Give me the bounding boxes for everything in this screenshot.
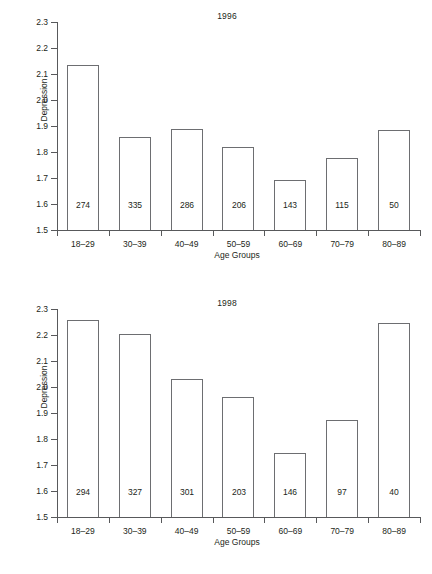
bar-count-label-1996-60–69: 143 — [260, 201, 320, 210]
x-axis-line-1996 — [57, 230, 421, 231]
y-tick-label-1996-5: 1.8 — [24, 148, 48, 157]
x-tick-1996-3 — [213, 231, 214, 236]
y-tick-label-1996-2: 2.1 — [24, 70, 48, 79]
x-tick-1998-4 — [264, 518, 265, 523]
y-axis-line-1996 — [57, 22, 58, 231]
bar-1998-60–69 — [274, 453, 306, 517]
y-tick-label-1996-4: 1.9 — [24, 122, 48, 131]
bar-count-label-1996-30–39: 335 — [105, 201, 165, 210]
y-tick-label-1998-6: 1.7 — [24, 461, 48, 470]
bar-count-label-1998-40–49: 301 — [157, 488, 217, 497]
figure-container: 1996 Depression Age Groups 2.32.22.12.01… — [0, 0, 432, 574]
x-tick-1996-4 — [264, 231, 265, 236]
y-tick-label-1996-3: 2.0 — [24, 96, 48, 105]
y-tick-1998-6 — [51, 465, 57, 466]
y-tick-label-1998-0: 2.3 — [24, 305, 48, 314]
y-tick-1998-0 — [51, 309, 57, 310]
bar-count-label-1998-60–69: 146 — [260, 488, 320, 497]
y-tick-1996-3 — [51, 100, 57, 101]
x-tick-1998-6 — [368, 518, 369, 523]
y-tick-label-1998-8: 1.5 — [24, 513, 48, 522]
chart-panel-1998: 1998 Depression Age Groups 2.32.22.12.01… — [0, 287, 432, 574]
y-tick-label-1998-5: 1.8 — [24, 435, 48, 444]
y-axis-line-1998 — [57, 309, 58, 518]
y-tick-label-1996-6: 1.7 — [24, 174, 48, 183]
bar-count-label-1998-70–79: 97 — [312, 488, 372, 497]
bar-count-label-1996-70–79: 115 — [312, 201, 372, 210]
bar-1996-40–49 — [171, 129, 203, 230]
x-axis-line-1998 — [57, 517, 421, 518]
y-tick-label-1996-8: 1.5 — [24, 226, 48, 235]
bar-1998-50–59 — [222, 397, 254, 517]
bar-1996-30–39 — [119, 137, 151, 230]
chart-title-1998: 1998 — [0, 298, 432, 308]
y-tick-1998-3 — [51, 387, 57, 388]
x-tick-1998-2 — [161, 518, 162, 523]
x-tick-1998-1 — [109, 518, 110, 523]
x-tick-1998-5 — [316, 518, 317, 523]
y-tick-1996-4 — [51, 126, 57, 127]
x-tick-1996-2 — [161, 231, 162, 236]
bar-1998-70–79 — [326, 420, 358, 517]
x-tick-1996-1 — [109, 231, 110, 236]
y-tick-label-1996-1: 2.2 — [24, 44, 48, 53]
x-axis-label-1998: Age Groups — [52, 537, 422, 547]
x-tick-1998-0 — [57, 518, 58, 523]
bar-count-label-1996-40–49: 286 — [157, 201, 217, 210]
y-tick-1996-6 — [51, 178, 57, 179]
y-tick-1998-5 — [51, 439, 57, 440]
bar-1996-50–59 — [222, 147, 254, 230]
x-axis-label-1996: Age Groups — [52, 250, 422, 260]
x-tick-1998-7 — [420, 518, 421, 523]
chart-panel-1996: 1996 Depression Age Groups 2.32.22.12.01… — [0, 0, 432, 287]
y-tick-1998-2 — [51, 361, 57, 362]
y-tick-label-1996-0: 2.3 — [24, 18, 48, 27]
y-tick-label-1998-2: 2.1 — [24, 357, 48, 366]
x-tick-1996-0 — [57, 231, 58, 236]
y-tick-label-1998-3: 2.0 — [24, 383, 48, 392]
y-tick-1996-5 — [51, 152, 57, 153]
y-tick-label-1998-4: 1.9 — [24, 409, 48, 418]
bar-count-label-1996-18–29: 274 — [53, 201, 113, 210]
x-tick-1996-7 — [420, 231, 421, 236]
x-tick-label-1996-6: 80–89 — [364, 239, 424, 249]
bar-1996-80–89 — [378, 130, 410, 230]
bar-count-label-1996-80–89: 50 — [364, 201, 424, 210]
x-tick-1996-6 — [368, 231, 369, 236]
y-tick-1998-1 — [51, 335, 57, 336]
x-tick-label-1998-6: 80–89 — [364, 526, 424, 536]
x-tick-1998-3 — [213, 518, 214, 523]
y-tick-1996-1 — [51, 48, 57, 49]
y-tick-label-1998-7: 1.6 — [24, 487, 48, 496]
bar-count-label-1998-80–89: 40 — [364, 488, 424, 497]
bar-count-label-1998-18–29: 294 — [53, 488, 113, 497]
y-tick-1998-4 — [51, 413, 57, 414]
y-tick-label-1996-7: 1.6 — [24, 200, 48, 209]
bar-count-label-1998-30–39: 327 — [105, 488, 165, 497]
y-tick-label-1998-1: 2.2 — [24, 331, 48, 340]
x-tick-1996-5 — [316, 231, 317, 236]
bar-1996-70–79 — [326, 158, 358, 230]
y-tick-1996-0 — [51, 22, 57, 23]
y-tick-1996-2 — [51, 74, 57, 75]
chart-title-1996: 1996 — [0, 11, 432, 21]
